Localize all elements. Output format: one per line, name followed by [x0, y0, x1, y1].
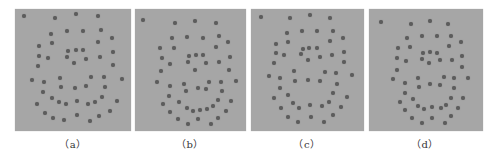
- marker-dot: [75, 99, 79, 103]
- marker-dot: [41, 90, 45, 94]
- marker-dot: [216, 116, 220, 120]
- marker-dot: [167, 94, 171, 98]
- marker-dot: [201, 53, 205, 57]
- image-panel-b: [135, 9, 246, 131]
- marker-dot: [50, 96, 54, 100]
- marker-dot: [342, 60, 346, 64]
- marker-dot: [292, 69, 296, 73]
- marker-dot: [226, 40, 230, 44]
- marker-dot: [176, 117, 180, 121]
- marker-dot: [172, 46, 176, 50]
- marker-dot: [286, 40, 290, 44]
- marker-dot: [185, 35, 189, 39]
- marker-dot: [184, 89, 188, 93]
- marker-dot: [427, 61, 431, 65]
- marker-dot: [110, 36, 114, 40]
- marker-dot: [450, 58, 454, 62]
- marker-dot: [335, 82, 339, 86]
- marker-dot: [228, 55, 232, 59]
- marker-dot: [74, 48, 78, 52]
- marker-dot: [309, 115, 313, 119]
- marker-dot: [300, 29, 304, 33]
- marker-dot: [308, 103, 312, 107]
- marker-dot: [93, 100, 97, 104]
- marker-dot: [395, 68, 399, 72]
- marker-dot: [403, 91, 407, 95]
- marker-dot: [286, 93, 290, 97]
- marker-dot: [416, 104, 420, 108]
- marker-dot: [435, 34, 439, 38]
- marker-dot: [420, 121, 424, 125]
- marker-dot: [430, 105, 434, 109]
- marker-dot: [102, 75, 106, 79]
- marker-dot: [97, 114, 101, 118]
- marker-dot: [187, 54, 191, 58]
- marker-dot: [100, 95, 104, 99]
- marker-dot: [322, 120, 326, 124]
- marker-dot: [205, 107, 209, 111]
- marker-dot: [62, 118, 66, 122]
- marker-dot: [398, 100, 402, 104]
- marker-dot: [395, 56, 399, 60]
- marker-dot: [327, 100, 331, 104]
- marker-dot: [405, 36, 409, 40]
- marker-dot: [186, 60, 190, 64]
- marker-dot: [288, 16, 292, 20]
- panel-caption-b: （b）: [170, 136, 210, 151]
- marker-dot: [64, 102, 68, 106]
- marker-dot: [350, 73, 354, 77]
- marker-dot: [460, 65, 464, 69]
- marker-dot: [282, 53, 286, 57]
- marker-dot: [88, 119, 92, 123]
- marker-dot: [259, 15, 263, 19]
- marker-dot: [72, 61, 76, 65]
- marker-dot: [193, 68, 197, 72]
- marker-dot: [58, 76, 62, 80]
- marker-dot: [42, 80, 46, 84]
- marker-dot: [84, 57, 88, 61]
- marker-dot: [447, 44, 451, 48]
- marker-dot: [318, 55, 322, 59]
- panel-caption-a: （a）: [53, 136, 93, 151]
- marker-dot: [272, 61, 276, 65]
- marker-dot: [99, 28, 103, 32]
- marker-dot: [173, 21, 177, 25]
- marker-dot: [443, 121, 447, 125]
- marker-dot: [37, 54, 41, 58]
- marker-dot: [449, 34, 453, 38]
- marker-dot: [204, 61, 208, 65]
- marker-dot: [46, 56, 50, 60]
- marker-dot: [331, 29, 335, 33]
- marker-dot: [328, 16, 332, 20]
- marker-dot: [81, 48, 85, 52]
- marker-dot: [438, 83, 442, 87]
- marker-dot: [229, 99, 233, 103]
- marker-dot: [209, 122, 213, 126]
- marker-dot: [182, 82, 186, 86]
- marker-dot: [452, 76, 456, 80]
- marker-dot: [155, 80, 159, 84]
- marker-dot: [96, 40, 100, 44]
- marker-dot: [416, 76, 420, 80]
- marker-dot: [409, 22, 413, 26]
- marker-dot: [86, 102, 90, 106]
- marker-dot: [410, 116, 414, 120]
- marker-dot: [207, 80, 211, 84]
- marker-dot: [84, 84, 88, 88]
- marker-dot: [219, 80, 223, 84]
- marker-dot: [422, 107, 426, 111]
- marker-dot: [196, 117, 200, 121]
- marker-dot: [267, 74, 271, 78]
- marker-dot: [439, 106, 443, 110]
- marker-dot: [308, 13, 312, 17]
- marker-dot: [417, 85, 421, 89]
- marker-dot: [379, 20, 383, 24]
- marker-dot: [217, 60, 221, 64]
- marker-dot: [66, 49, 70, 53]
- marker-dot: [274, 51, 278, 55]
- marker-dot: [330, 53, 334, 57]
- marker-dot: [428, 19, 432, 23]
- marker-dot: [301, 47, 305, 51]
- marker-dot: [214, 21, 218, 25]
- marker-dot: [320, 104, 324, 108]
